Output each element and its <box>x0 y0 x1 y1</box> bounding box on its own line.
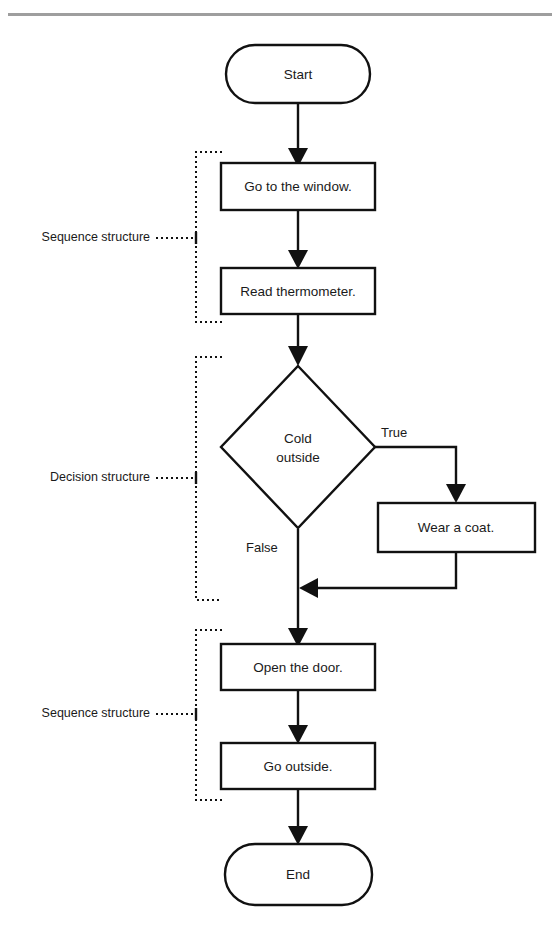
edge-door-to-outside <box>288 690 308 744</box>
edge-coat-to-merge <box>299 552 456 598</box>
node-go-outside-label: Go outside. <box>263 759 332 774</box>
node-decision-label-line1: Cold <box>284 431 312 446</box>
flowchart-page: Start Go to the window. Read thermometer… <box>0 0 560 946</box>
edge-label-true: True <box>381 425 407 440</box>
node-end-label: End <box>286 867 310 882</box>
annotation-decision-structure: Decision structure <box>50 357 222 600</box>
node-read-thermometer-label: Read thermometer. <box>240 284 356 299</box>
node-decision-cold-outside[interactable]: Cold outside <box>221 366 375 528</box>
node-go-to-window[interactable]: Go to the window. <box>221 163 375 210</box>
edge-start-to-window <box>288 103 308 167</box>
flowchart-canvas: Start Go to the window. Read thermometer… <box>0 0 560 946</box>
node-start[interactable]: Start <box>226 45 370 103</box>
edge-window-to-thermometer <box>288 210 308 269</box>
annotation-label-sequence-bottom: Sequence structure <box>42 706 150 720</box>
annotation-sequence-structure-bottom: Sequence structure <box>42 630 222 800</box>
edge-decision-true-to-coat <box>374 447 466 503</box>
annotation-label-sequence-top: Sequence structure <box>42 230 150 244</box>
node-wear-a-coat[interactable]: Wear a coat. <box>378 503 535 552</box>
node-read-thermometer[interactable]: Read thermometer. <box>221 268 375 314</box>
edge-thermometer-to-decision <box>288 314 308 366</box>
node-end[interactable]: End <box>225 844 372 905</box>
node-wear-a-coat-label: Wear a coat. <box>418 520 494 535</box>
node-start-label: Start <box>284 67 313 82</box>
edge-label-false: False <box>246 540 278 555</box>
node-go-outside[interactable]: Go outside. <box>221 743 375 789</box>
edge-outside-to-end <box>288 789 308 845</box>
node-open-the-door[interactable]: Open the door. <box>221 644 375 690</box>
annotation-label-decision: Decision structure <box>50 470 150 484</box>
node-open-the-door-label: Open the door. <box>253 660 342 675</box>
node-decision-label-line2: outside <box>276 450 320 465</box>
annotation-sequence-structure-top: Sequence structure <box>42 152 222 322</box>
node-go-to-window-label: Go to the window. <box>244 179 351 194</box>
